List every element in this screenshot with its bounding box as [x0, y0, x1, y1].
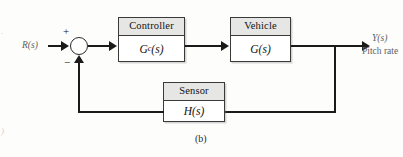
wire-vehicle-to-output [291, 45, 363, 47]
controller-block-title: Controller [119, 18, 184, 36]
controller-tf-argument: (s) [151, 43, 163, 55]
vehicle-block: Vehicle G(s) [230, 17, 291, 62]
controller-block: Controller Gc(s) [118, 17, 185, 62]
wire-feedback-vertical-right [334, 45, 336, 113]
scan-artifact-top-left: · [1, 28, 3, 38]
controller-tf-main: G [139, 43, 147, 55]
summing-junction-plus-sign: + [63, 26, 69, 37]
figure-caption: (b) [195, 133, 207, 144]
output-signal-label: Y(s) [372, 33, 387, 44]
arrowhead-into-sum-feedback [74, 55, 84, 63]
wire-sensor-to-left [78, 111, 164, 113]
scan-artifact-bottom-left: ) [1, 126, 4, 136]
vehicle-tf-main: G [250, 43, 258, 55]
wire-feedback-vertical-left [78, 62, 80, 113]
arrowhead-into-vehicle [221, 41, 229, 51]
vehicle-tf-argument: (s) [259, 43, 271, 55]
vehicle-block-title: Vehicle [231, 18, 290, 36]
sensor-transfer-function: H(s) [164, 101, 224, 121]
sensor-block: Sensor H(s) [163, 82, 225, 122]
wire-input-to-sum [48, 45, 62, 47]
block-diagram-figure: · ) R(s) + − Controller Gc(s) Vehicle G(… [0, 0, 403, 157]
sensor-tf-argument: (s) [192, 105, 204, 117]
arrowhead-into-controller [109, 41, 117, 51]
wire-sum-to-controller [88, 45, 110, 47]
wire-feedback-into-sensor [225, 111, 336, 113]
arrowhead-into-sum [61, 41, 69, 51]
summing-junction-minus-sign: − [64, 57, 70, 68]
wire-controller-to-vehicle [185, 45, 222, 47]
output-signal-sublabel: Pitch rate [362, 46, 398, 57]
input-signal-label: R(s) [22, 40, 38, 51]
summing-junction [70, 37, 88, 55]
sensor-block-title: Sensor [164, 83, 224, 101]
sensor-tf-main: H [184, 105, 192, 117]
controller-transfer-function: Gc(s) [119, 36, 184, 61]
vehicle-transfer-function: G(s) [231, 36, 290, 61]
